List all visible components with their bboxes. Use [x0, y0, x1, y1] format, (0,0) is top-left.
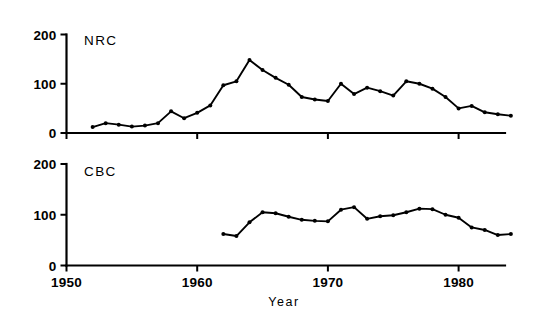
x-tick-label-1950: 1950 — [51, 275, 82, 290]
data-point-cbc-1979 — [444, 213, 448, 217]
data-point-nrc-1968 — [300, 95, 304, 99]
data-point-nrc-1984 — [509, 114, 513, 118]
data-point-cbc-1983 — [496, 233, 500, 237]
data-point-nrc-1981 — [470, 104, 474, 108]
data-point-nrc-1966 — [274, 76, 278, 80]
data-point-nrc-1978 — [430, 87, 434, 91]
data-point-cbc-1982 — [483, 228, 487, 232]
data-point-cbc-1970 — [326, 219, 330, 223]
panel-nrc: 0100200NRC — [33, 28, 513, 142]
x-axis-title: Year — [268, 295, 300, 309]
data-point-cbc-1962 — [221, 232, 225, 236]
data-point-nrc-1979 — [444, 95, 448, 99]
data-point-nrc-1958 — [169, 109, 173, 113]
data-point-cbc-1971 — [339, 208, 343, 212]
data-point-nrc-1969 — [313, 98, 317, 102]
data-point-cbc-1974 — [378, 214, 382, 218]
data-point-cbc-1981 — [470, 225, 474, 229]
data-point-nrc-1965 — [261, 68, 265, 72]
y-tick-label-200-cbc: 200 — [33, 157, 56, 172]
y-tick-label-200-nrc: 200 — [33, 28, 56, 43]
y-tick-label-100-nrc: 100 — [33, 77, 56, 92]
data-point-nrc-1957 — [156, 121, 160, 125]
data-point-nrc-1956 — [143, 124, 147, 128]
data-point-cbc-1978 — [430, 207, 434, 211]
data-point-cbc-1968 — [300, 218, 304, 222]
data-point-cbc-1976 — [404, 210, 408, 214]
series-line-cbc — [223, 207, 511, 236]
data-point-cbc-1972 — [352, 205, 356, 209]
data-point-cbc-1984 — [509, 232, 513, 236]
data-point-cbc-1977 — [417, 207, 421, 211]
data-point-nrc-1971 — [339, 82, 343, 86]
x-tick-label-1970: 1970 — [312, 275, 343, 290]
data-point-nrc-1982 — [483, 110, 487, 114]
data-point-nrc-1955 — [130, 125, 134, 129]
chart-canvas: 0100200NRC01002001950196019701980YearCBC — [0, 0, 539, 317]
data-point-nrc-1977 — [417, 82, 421, 86]
data-point-nrc-1980 — [457, 106, 461, 110]
data-point-nrc-1975 — [391, 94, 395, 98]
data-point-nrc-1976 — [404, 79, 408, 83]
data-point-nrc-1954 — [117, 123, 121, 127]
y-tick-label-100-cbc: 100 — [33, 208, 56, 223]
data-point-cbc-1964 — [247, 220, 251, 224]
panel-label-nrc: NRC — [84, 33, 117, 48]
data-point-nrc-1964 — [247, 58, 251, 62]
data-point-cbc-1969 — [313, 219, 317, 223]
x-tick-label-1980: 1980 — [443, 275, 474, 290]
data-point-nrc-1952 — [91, 125, 95, 129]
data-point-cbc-1966 — [274, 211, 278, 215]
panel-cbc: 01002001950196019701980YearCBC — [33, 157, 513, 309]
panel-label-cbc: CBC — [84, 164, 117, 179]
figure-panel-chart: 0100200NRC01002001950196019701980YearCBC — [0, 0, 539, 317]
data-point-nrc-1960 — [195, 111, 199, 115]
data-point-nrc-1953 — [104, 121, 108, 125]
data-point-nrc-1983 — [496, 112, 500, 116]
data-point-cbc-1967 — [287, 215, 291, 219]
y-tick-label-0-nrc: 0 — [49, 126, 57, 141]
data-point-nrc-1973 — [365, 86, 369, 90]
data-point-cbc-1980 — [457, 216, 461, 220]
data-point-nrc-1961 — [208, 103, 212, 107]
data-point-nrc-1967 — [287, 83, 291, 87]
series-line-nrc — [93, 60, 511, 127]
data-point-nrc-1972 — [352, 92, 356, 96]
y-tick-label-0-cbc: 0 — [49, 259, 57, 274]
data-point-nrc-1970 — [326, 99, 330, 103]
data-point-nrc-1959 — [182, 116, 186, 120]
x-tick-label-1960: 1960 — [182, 275, 213, 290]
data-point-cbc-1975 — [391, 213, 395, 217]
data-point-cbc-1965 — [261, 210, 265, 214]
data-point-cbc-1963 — [234, 234, 238, 238]
data-point-cbc-1973 — [365, 217, 369, 221]
data-point-nrc-1963 — [234, 79, 238, 83]
data-point-nrc-1962 — [221, 83, 225, 87]
data-point-nrc-1974 — [378, 89, 382, 93]
